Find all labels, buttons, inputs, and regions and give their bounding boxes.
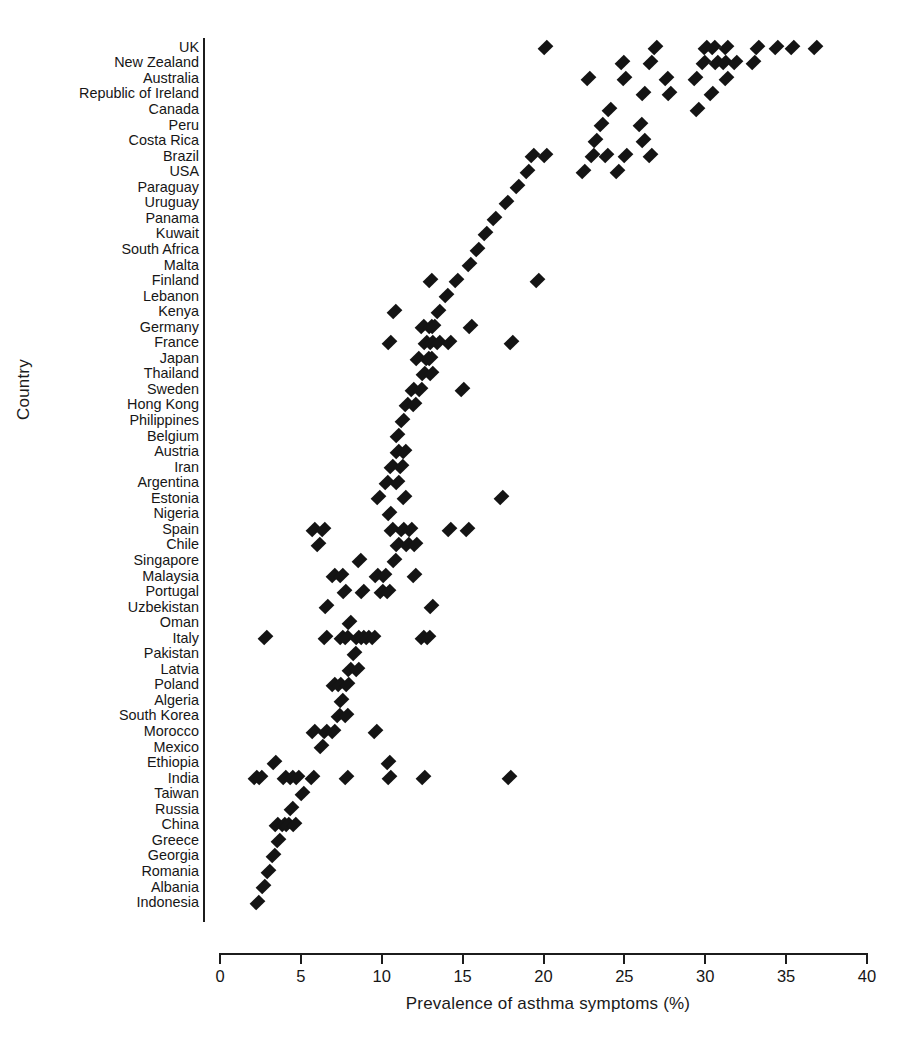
y-axis-tick-label: Pakistan (144, 646, 199, 660)
y-axis-tick-label: Peru (169, 118, 199, 132)
data-point-marker (728, 55, 744, 71)
y-axis-tick-label: Brazil (163, 149, 199, 163)
data-point-marker (469, 241, 485, 257)
y-axis-tick-label: Romania (141, 864, 199, 878)
x-axis: Prevalence of asthma symptoms (%) 051015… (203, 953, 893, 1023)
data-point-marker (439, 288, 455, 304)
y-axis-tick-label: Costa Rica (129, 133, 199, 147)
y-axis-tick-label: Germany (140, 320, 199, 334)
data-point-marker (659, 70, 675, 86)
data-point-marker (642, 148, 658, 164)
x-axis-tick (704, 953, 706, 964)
data-point-marker (442, 335, 458, 351)
y-axis-tick-label: Panama (145, 211, 199, 225)
y-axis-tick-label: Hong Kong (127, 397, 199, 411)
data-point-marker (416, 770, 432, 786)
y-axis-tick-label: Albania (151, 880, 199, 894)
data-point-marker (283, 801, 299, 817)
data-point-marker (633, 117, 649, 133)
data-point-marker (314, 739, 330, 755)
y-axis-tick-label: France (154, 335, 199, 349)
x-axis-tick-label: 35 (756, 967, 816, 985)
y-axis-tick-label: Austria (154, 444, 199, 458)
y-axis-tick-label: Paraguay (137, 180, 199, 194)
y-axis-tick-label: Morocco (144, 724, 199, 738)
y-axis-tick-label: Malaysia (142, 569, 199, 583)
data-point-marker (602, 101, 618, 117)
y-axis-tick-label: Lebanon (143, 289, 199, 303)
x-axis-tick (623, 953, 625, 964)
data-point-marker (406, 568, 422, 584)
data-point-marker (615, 55, 631, 71)
y-axis-tick-label: Belgium (147, 429, 199, 443)
data-point-marker (594, 117, 610, 133)
y-axis-tick-label: Russia (155, 802, 199, 816)
data-point-marker (342, 614, 358, 630)
data-point-marker (337, 583, 353, 599)
data-point-marker (442, 521, 458, 537)
data-point-marker (387, 303, 403, 319)
x-axis-tick-label: 30 (675, 967, 735, 985)
data-point-marker (267, 754, 283, 770)
data-point-marker (424, 599, 440, 615)
data-point-marker (371, 490, 387, 506)
y-axis-tick-label: New Zealand (114, 55, 199, 69)
y-axis-tick-label: Argentina (137, 475, 199, 489)
data-point-marker (529, 272, 545, 288)
data-point-marker (266, 848, 282, 864)
data-point-marker (431, 303, 447, 319)
data-point-marker (610, 164, 626, 180)
y-axis-tick-label: Portugal (145, 584, 199, 598)
data-point-marker (487, 210, 503, 226)
y-axis-tick-label: South Korea (119, 708, 199, 722)
data-point-marker (718, 70, 734, 86)
data-point-marker (270, 832, 286, 848)
data-point-marker (390, 428, 406, 444)
data-point-marker (338, 770, 354, 786)
y-axis-tick-label: Japan (160, 351, 199, 365)
asthma-prevalence-scatter-figure: Country UKNew ZealandAustraliaRepublic o… (0, 0, 903, 1044)
data-point-marker (584, 148, 600, 164)
y-axis-tick-label: South Africa (121, 242, 199, 256)
data-point-marker (807, 39, 823, 55)
data-point-marker (351, 552, 367, 568)
x-axis-tick-label: 10 (352, 967, 412, 985)
data-point-marker (581, 70, 597, 86)
y-axis-tick-label: Uzbekistan (128, 600, 199, 614)
x-axis-tick-label: 40 (837, 967, 897, 985)
data-point-marker (498, 195, 514, 211)
data-point-marker (704, 86, 720, 102)
data-point-marker (382, 770, 398, 786)
y-axis-tick-label: Latvia (161, 662, 199, 676)
x-axis-tick (300, 953, 302, 964)
y-axis-tick-label: Mexico (153, 740, 199, 754)
y-axis-tick-label: Kenya (158, 304, 199, 318)
y-axis-tick-label: Italy (173, 631, 199, 645)
data-point-marker (576, 164, 592, 180)
data-point-marker (785, 39, 801, 55)
y-axis-tick-label: India (168, 771, 199, 785)
data-point-marker (354, 583, 370, 599)
data-point-marker (636, 132, 652, 148)
y-axis-tick-label: Singapore (133, 553, 199, 567)
data-point-marker (477, 226, 493, 242)
data-point-marker (395, 412, 411, 428)
scatter-points-layer (203, 38, 893, 922)
data-point-marker (333, 692, 349, 708)
y-axis-tick-label: Algeria (154, 693, 199, 707)
data-point-marker (537, 39, 553, 55)
data-point-marker (257, 630, 273, 646)
x-axis-tick (381, 953, 383, 964)
data-point-marker (647, 39, 663, 55)
data-point-marker (502, 770, 518, 786)
data-point-marker (455, 381, 471, 397)
data-point-marker (587, 132, 603, 148)
y-axis-tick-label: Taiwan (154, 786, 199, 800)
y-axis-tick-label: UK (179, 40, 199, 54)
y-axis-tick-label: Canada (149, 102, 199, 116)
y-axis-tick-label: Ethiopia (147, 755, 199, 769)
y-axis-tick-label: Indonesia (137, 895, 199, 909)
data-point-marker (519, 164, 535, 180)
data-point-marker (390, 475, 406, 491)
data-point-marker (256, 879, 272, 895)
